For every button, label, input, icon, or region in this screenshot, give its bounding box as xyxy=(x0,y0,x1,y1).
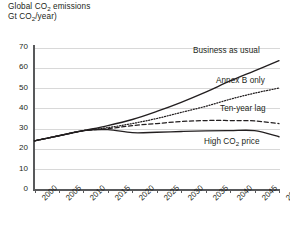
series-label-ten-year-lag: Ten-year lag xyxy=(220,104,266,113)
series-label-annex-b-only: Annex B only xyxy=(216,76,265,85)
chart-figure: Global CO2 emissions Gt CO2/year) 010203… xyxy=(0,0,290,230)
series-label-high-co2-price: High CO2 price xyxy=(204,137,260,146)
series-curves xyxy=(0,0,290,230)
subscript-2: 2 xyxy=(236,140,240,147)
series-label-business-as-usual: Business as usual xyxy=(193,46,260,55)
series-line-business-as-usual xyxy=(35,61,280,141)
